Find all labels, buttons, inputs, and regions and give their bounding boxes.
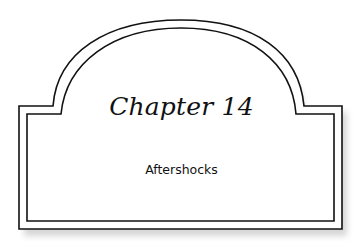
chapter-title: Chapter 14 bbox=[0, 92, 363, 121]
chapter-subtitle: Aftershocks bbox=[0, 162, 363, 177]
chapter-frame bbox=[0, 0, 363, 247]
